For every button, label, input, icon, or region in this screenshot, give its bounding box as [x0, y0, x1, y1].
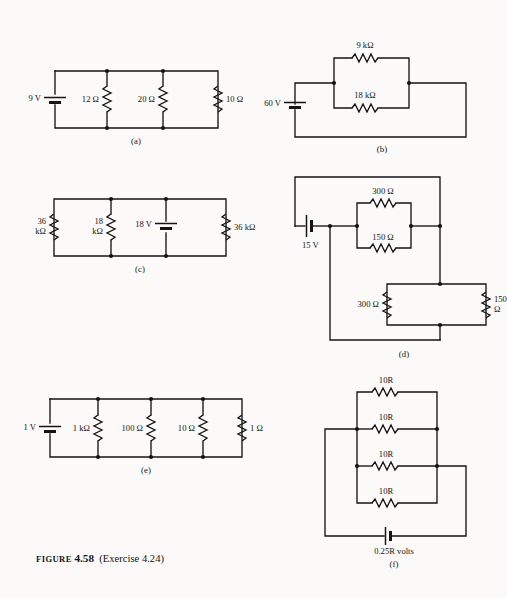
source-label-b: 60 V	[264, 98, 282, 108]
resistor-label-c-1-line1: 36	[37, 216, 46, 226]
node-c-bot-1	[109, 254, 113, 258]
resistor-label-c-1-line2: kΩ	[35, 226, 46, 236]
resistor-label-f-2-var: R	[387, 412, 393, 422]
resistor-label-a-2: 20 Ω	[138, 94, 155, 104]
resistor-label-f-3-var: R	[387, 449, 393, 459]
sublabel-e: (e)	[141, 465, 151, 475]
circuit-e: 1 V 1 kΩ 100 Ω 10 Ω 1 Ω (	[24, 397, 263, 475]
source-label-f: 0.25R volts	[374, 546, 414, 556]
node-a-bot-2	[161, 126, 165, 130]
resistor-label-c-2-line2: kΩ	[92, 226, 103, 236]
resistor-label-f-4-prefix: 10	[379, 486, 388, 496]
sublabel-a: (a)	[131, 136, 141, 146]
figure-label-word: FIGURE	[36, 554, 72, 564]
node-a-top-1	[105, 69, 109, 73]
node-c-top-2	[164, 197, 168, 201]
resistor-label-d-3: 300 Ω	[358, 299, 379, 309]
resistor-label-b-1: 9 kΩ	[356, 40, 373, 50]
resistor-label-f-2-prefix: 10	[379, 412, 388, 422]
figure-caption: FIGURE 4.58 (Exercise 4.24)	[36, 552, 164, 564]
circuit-c: 36 kΩ 18 kΩ 18 V 36 kΩ (c)	[35, 197, 255, 274]
node-e-bot-1	[96, 455, 100, 459]
source-label-d: 15 V	[302, 240, 320, 250]
resistor-label-f-3: 10R	[379, 449, 394, 459]
node-b-left	[332, 81, 336, 85]
resistor-label-f-4: 10R	[379, 486, 394, 496]
figure-number: 4.58	[74, 552, 94, 564]
figure-page: 9 V 12 Ω 20 Ω 10 Ω (a)	[0, 0, 507, 598]
resistor-label-e-4: 1 Ω	[250, 423, 263, 433]
source-label-a: 9 V	[29, 93, 42, 103]
resistor-label-e-2: 100 Ω	[122, 423, 143, 433]
sublabel-d: (d)	[399, 349, 409, 359]
resistor-label-e-3: 10 Ω	[178, 423, 195, 433]
resistor-label-d-4-line1: 150	[494, 294, 507, 304]
sublabel-c: (c)	[135, 264, 145, 274]
resistor-label-f-1: 10R	[379, 375, 394, 385]
node-c-top-1	[109, 197, 113, 201]
resistor-label-b-2: 18 kΩ	[354, 90, 375, 100]
circuit-figure-svg: 9 V 12 Ω 20 Ω 10 Ω (a)	[0, 0, 507, 598]
source-label-c: 18 V	[135, 219, 153, 229]
node-e-top-3	[201, 397, 205, 401]
node-e-top-2	[149, 397, 153, 401]
resistor-label-d-2: 150 Ω	[372, 232, 393, 242]
resistor-label-a-3: 10 Ω	[226, 94, 243, 104]
figure-exercise-ref: (Exercise 4.24)	[99, 553, 164, 564]
resistor-label-f-3-prefix: 10	[379, 449, 388, 459]
node-a-bot-1	[105, 126, 109, 130]
resistor-label-f-2: 10R	[379, 412, 394, 422]
source-label-f-prefix: 0.25	[374, 546, 389, 556]
sublabel-b: (b)	[377, 144, 387, 154]
sublabel-f: (f)	[390, 559, 399, 569]
circuit-f: 10R 10R 10R 10R	[325, 375, 466, 569]
node-b-right	[407, 81, 411, 85]
circuit-a: 9 V 12 Ω 20 Ω 10 Ω (a)	[29, 69, 244, 146]
resistor-label-d-1: 300 Ω	[372, 186, 393, 196]
resistor-label-f-1-var: R	[387, 375, 393, 385]
node-c-bot-2	[164, 254, 168, 258]
resistor-label-f-1-prefix: 10	[379, 375, 388, 385]
source-label-e: 1 V	[24, 422, 37, 432]
resistor-label-f-4-var: R	[387, 486, 393, 496]
circuit-d: 15 V 300 Ω 150 Ω	[295, 177, 507, 359]
node-e-bot-3	[201, 455, 205, 459]
node-e-bot-2	[149, 455, 153, 459]
resistor-label-c-2-line1: 18	[94, 216, 103, 226]
resistor-label-e-1: 1 kΩ	[73, 423, 90, 433]
source-label-f-suffix: volts	[395, 546, 415, 556]
circuit-b: 60 V 9 kΩ 18 kΩ (b)	[264, 40, 466, 154]
node-e-top-1	[96, 397, 100, 401]
resistor-label-c-3: 36 kΩ	[234, 222, 255, 232]
node-a-top-2	[161, 69, 165, 73]
resistor-label-d-4-line2: Ω	[494, 304, 500, 314]
resistor-label-a-1: 12 Ω	[82, 94, 99, 104]
